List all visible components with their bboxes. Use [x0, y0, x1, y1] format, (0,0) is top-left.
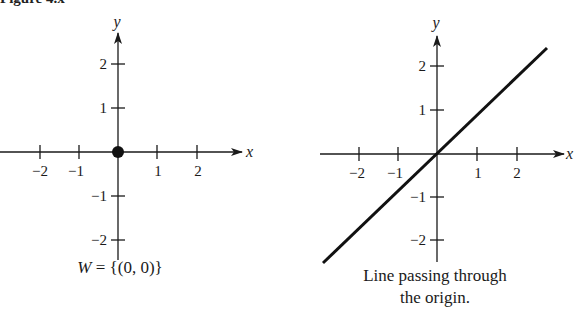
left-y-axis-label: y — [111, 13, 121, 31]
right-graph: −2 −1 1 2 2 1 −1 −2 y x — [320, 14, 573, 263]
left-y-tick-label: 1 — [100, 100, 108, 116]
right-caption: Line passing through the origin. — [330, 265, 540, 309]
line-through-origin — [323, 48, 547, 263]
left-caption-set: = {(0, 0)} — [91, 258, 162, 277]
left-y-tick-label: −2 — [91, 232, 107, 248]
left-caption-var: W — [77, 258, 91, 277]
left-x-tick-label: 2 — [194, 163, 202, 179]
right-y-tick-label: −1 — [410, 189, 426, 205]
right-x-tick-label: −1 — [387, 165, 403, 181]
right-x-axis-label: x — [565, 145, 573, 162]
right-y-tick-label: 2 — [419, 58, 427, 74]
left-graph: −2 −1 1 2 2 1 −1 −2 y x — [0, 13, 253, 260]
left-y-tick-label: −1 — [91, 188, 107, 204]
right-x-tick-label: −2 — [349, 165, 365, 181]
right-x-tick-label: 2 — [513, 165, 521, 181]
right-y-tick-label: 1 — [419, 102, 427, 118]
left-x-axis-label: x — [245, 143, 253, 160]
right-caption-line-1: Line passing through — [330, 265, 540, 287]
left-y-tick-label: 2 — [100, 56, 108, 72]
left-x-tick-label: −2 — [32, 163, 48, 179]
right-y-tick-label: −2 — [410, 232, 426, 248]
origin-point — [112, 146, 124, 158]
left-x-tick-label: −1 — [68, 163, 84, 179]
left-caption: W = {(0, 0)} — [40, 257, 200, 279]
right-caption-line-2: the origin. — [330, 287, 540, 309]
left-x-tick-label: 1 — [154, 163, 162, 179]
right-y-axis-label: y — [430, 14, 440, 32]
right-x-tick-label: 1 — [474, 165, 482, 181]
